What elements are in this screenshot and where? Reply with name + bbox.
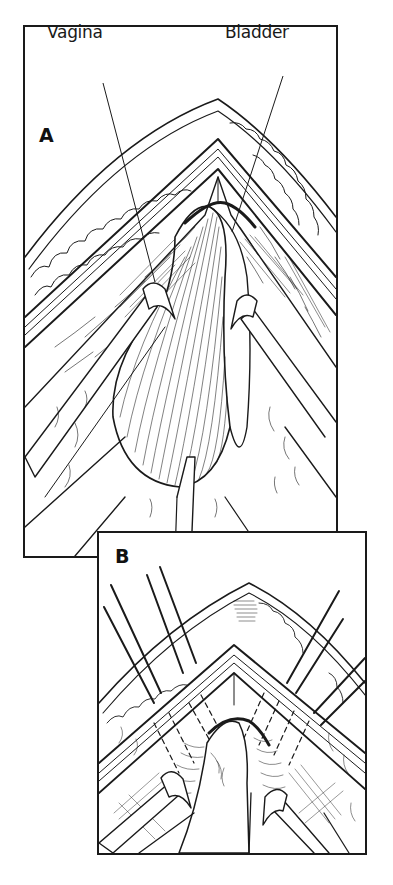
panel-b-drawing [99,533,365,853]
panel-b-letter: B [115,545,129,567]
vagina-label: Vagina [47,22,103,42]
panel-b: B [97,531,367,855]
panel-a-drawing [25,27,336,556]
panel-a: A [23,25,338,558]
bladder-label: Bladder [225,22,289,42]
panel-a-letter: A [39,124,54,146]
